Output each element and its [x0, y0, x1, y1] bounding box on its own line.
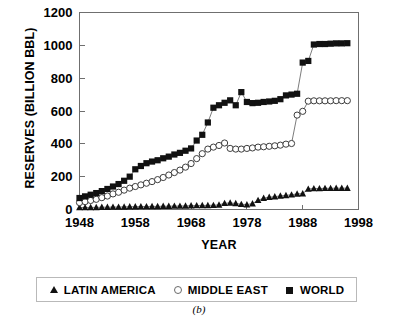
data-point-marker: [338, 185, 345, 191]
data-point-marker: [166, 154, 172, 160]
y-tick-label: 600: [51, 104, 73, 119]
data-point-marker: [188, 160, 194, 166]
x-tick-label: 1988: [288, 215, 317, 230]
data-point-marker: [233, 102, 239, 108]
data-point-marker: [294, 112, 300, 118]
data-point-marker: [115, 181, 121, 187]
y-tick-label: 1200: [44, 5, 73, 20]
data-point-marker: [88, 192, 94, 198]
data-point-marker: [171, 151, 177, 157]
data-point-marker: [149, 158, 155, 164]
data-point-marker: [300, 108, 306, 114]
y-axis-label: RESERVES (BILLION BBL): [23, 8, 37, 208]
data-point-marker: [221, 100, 227, 106]
data-point-marker: [143, 160, 149, 166]
data-point-marker: [249, 100, 255, 106]
figure-caption: (b): [0, 303, 398, 315]
data-point-marker: [87, 204, 94, 210]
data-point-marker: [339, 40, 345, 46]
data-point-marker: [194, 156, 200, 162]
data-point-marker: [249, 200, 256, 206]
data-point-marker: [316, 41, 322, 47]
data-point-marker: [311, 41, 317, 47]
data-point-marker: [93, 190, 99, 196]
y-tick-label: 200: [51, 169, 73, 184]
data-point-marker: [288, 140, 294, 146]
data-point-marker: [76, 195, 82, 201]
legend-label-latin-america: LATIN AMERICA: [64, 284, 156, 296]
chart-legend: LATIN AMERICA MIDDLE EAST WORLD: [36, 277, 357, 302]
legend-label-middle-east: MIDDLE EAST: [188, 284, 268, 296]
x-axis-label: YEAR: [79, 238, 359, 252]
data-point-marker: [177, 150, 183, 156]
data-point-marker: [283, 92, 289, 98]
data-point-marker: [160, 155, 166, 161]
data-point-marker: [160, 203, 167, 209]
circle-marker-icon: [173, 284, 184, 295]
data-point-marker: [272, 98, 278, 104]
chart-svg: 0200400600800100012001948195819681978198…: [0, 0, 398, 262]
y-tick-label: 1000: [44, 38, 73, 53]
data-point-marker: [261, 99, 267, 105]
x-tick-label: 1948: [65, 215, 94, 230]
data-point-marker: [132, 166, 138, 172]
data-point-marker: [294, 91, 300, 97]
data-point-marker: [110, 183, 116, 189]
data-point-marker: [344, 40, 350, 46]
legend-label-world: WORLD: [300, 284, 344, 296]
data-point-marker: [199, 151, 205, 157]
data-point-marker: [299, 190, 306, 196]
data-point-marker: [121, 178, 127, 184]
data-point-marker: [305, 58, 311, 64]
data-point-marker: [182, 148, 188, 154]
data-point-marker: [99, 188, 105, 194]
data-point-marker: [238, 89, 244, 95]
data-point-marker: [333, 185, 340, 191]
data-point-marker: [155, 157, 161, 163]
data-point-marker: [300, 59, 306, 65]
x-tick-label: 1968: [177, 215, 206, 230]
data-point-marker: [322, 41, 328, 47]
data-point-marker: [255, 100, 261, 106]
data-point-marker: [194, 137, 200, 143]
triangle-marker-icon: [49, 284, 60, 295]
data-point-marker: [199, 202, 206, 208]
figure-panel: 0200400600800100012001948195819681978198…: [0, 0, 398, 321]
chart-plot-area: 0200400600800100012001948195819681978198…: [0, 0, 398, 262]
data-point-marker: [110, 203, 117, 209]
legend-item-middle-east: MIDDLE EAST: [173, 284, 268, 296]
data-point-marker: [138, 163, 144, 169]
series-latin-america: [76, 185, 351, 211]
data-point-marker: [333, 40, 339, 46]
legend-item-latin-america: LATIN AMERICA: [49, 284, 156, 296]
data-point-marker: [288, 91, 294, 97]
data-point-marker: [210, 105, 216, 111]
legend-item-world: WORLD: [285, 284, 344, 296]
square-marker-icon: [285, 284, 296, 295]
data-point-marker: [188, 145, 194, 151]
data-point-marker: [244, 99, 250, 105]
x-tick-label: 1998: [344, 215, 373, 230]
data-point-marker: [127, 174, 133, 180]
data-point-marker: [126, 203, 133, 209]
data-point-marker: [277, 96, 283, 102]
data-point-marker: [266, 98, 272, 104]
data-point-marker: [310, 185, 317, 191]
data-point-marker: [227, 97, 233, 103]
data-point-marker: [344, 185, 351, 191]
series-world: [76, 40, 350, 201]
data-point-marker: [82, 193, 88, 199]
data-point-marker: [255, 197, 262, 203]
data-point-marker: [205, 119, 211, 125]
y-tick-label: 400: [51, 136, 73, 151]
data-point-marker: [182, 164, 188, 170]
data-point-marker: [216, 102, 222, 108]
data-point-marker: [104, 186, 110, 192]
y-tick-label: 800: [51, 71, 73, 86]
data-point-marker: [199, 132, 205, 138]
data-point-marker: [328, 41, 334, 47]
data-point-marker: [344, 98, 350, 104]
x-tick-label: 1958: [121, 215, 150, 230]
data-point-marker: [221, 140, 227, 146]
data-point-marker: [227, 199, 234, 205]
